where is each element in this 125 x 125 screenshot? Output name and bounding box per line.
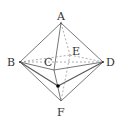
- edge-AC: [54, 23, 61, 70]
- hidden-edges: [20, 23, 103, 101]
- octahedron-figure: A B C D E F: [0, 0, 125, 125]
- octahedron-diagram: A B C D E F: [0, 0, 125, 125]
- label-A: A: [56, 10, 66, 23]
- edge-AD: [61, 23, 103, 62]
- label-C: C: [44, 56, 52, 69]
- label-F: F: [57, 106, 65, 119]
- label-D: D: [106, 56, 115, 69]
- edge-AB: [20, 23, 61, 62]
- label-B: B: [7, 56, 15, 69]
- vertex-B-dot: [19, 61, 21, 63]
- label-E: E: [72, 45, 80, 58]
- edge-BF: [20, 62, 61, 101]
- vertex-D-dot: [102, 61, 104, 63]
- edge-AE-hidden: [61, 23, 70, 55]
- point-marker: [56, 84, 60, 88]
